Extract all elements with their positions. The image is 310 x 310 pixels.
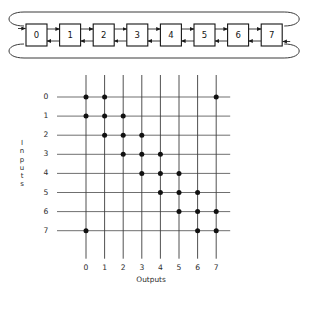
wraparound-loop-bottom xyxy=(9,44,299,58)
col-tick-label-4: 4 xyxy=(158,263,163,272)
crosspoint-in2-out3[interactable] xyxy=(139,133,144,138)
col-tick-label-7: 7 xyxy=(214,263,219,272)
node-label-6: 6 xyxy=(235,30,240,40)
node-label-2: 2 xyxy=(101,30,106,40)
row-tick-label-2: 2 xyxy=(44,130,49,139)
row-tick-label-4: 4 xyxy=(44,168,49,177)
y-axis-title-letter-1: n xyxy=(20,147,24,155)
row-tick-label-0: 0 xyxy=(44,92,49,101)
x-axis-title: Outputs xyxy=(136,275,166,284)
crosspoint-in1-out1[interactable] xyxy=(102,114,107,119)
y-axis-title-letter-2: p xyxy=(20,156,25,164)
col-tick-label-0: 0 xyxy=(84,263,89,272)
wraparound-loop-top xyxy=(9,12,299,26)
crosspoint-in3-out3[interactable] xyxy=(139,152,144,157)
ring-and-crossbar-figure: 01234567 0123456701234567OutputsInputs xyxy=(0,0,310,310)
col-tick-label-5: 5 xyxy=(177,263,182,272)
col-tick-label-3: 3 xyxy=(139,263,144,272)
crosspoint-in4-out5[interactable] xyxy=(177,171,182,176)
crosspoint-in0-out7[interactable] xyxy=(214,95,219,100)
y-axis-title-letter-5: s xyxy=(20,180,24,188)
crosspoint-in7-out7[interactable] xyxy=(214,228,219,233)
crosspoint-in0-out1[interactable] xyxy=(102,95,107,100)
crosspoint-in5-out5[interactable] xyxy=(177,190,182,195)
crosspoint-in5-out4[interactable] xyxy=(158,190,163,195)
node-label-0: 0 xyxy=(34,30,39,40)
crosspoint-in1-out0[interactable] xyxy=(84,114,89,119)
y-axis-title-letter-3: u xyxy=(20,164,24,172)
row-tick-label-5: 5 xyxy=(44,188,49,197)
node-label-4: 4 xyxy=(168,30,173,40)
crosspoint-in6-out6[interactable] xyxy=(195,209,200,214)
crossbar-matrix: 0123456701234567OutputsInputs xyxy=(20,75,230,284)
crosspoint-in2-out1[interactable] xyxy=(102,133,107,138)
row-tick-label-7: 7 xyxy=(44,226,49,235)
crosspoint-in1-out2[interactable] xyxy=(121,114,126,119)
crosspoint-in4-out3[interactable] xyxy=(139,171,144,176)
crosspoint-in2-out2[interactable] xyxy=(121,133,126,138)
crosspoint-in5-out6[interactable] xyxy=(195,190,200,195)
crosspoint-in4-out4[interactable] xyxy=(158,171,163,176)
row-tick-label-1: 1 xyxy=(44,111,49,120)
col-tick-label-2: 2 xyxy=(121,263,126,272)
crosspoint-in3-out2[interactable] xyxy=(121,152,126,157)
crosspoint-in6-out5[interactable] xyxy=(177,209,182,214)
node-label-3: 3 xyxy=(135,30,140,40)
crosspoint-in0-out0[interactable] xyxy=(84,95,89,100)
y-axis-title-letter-0: I xyxy=(21,139,23,147)
node-label-7: 7 xyxy=(269,30,274,40)
crosspoint-in7-out0[interactable] xyxy=(84,228,89,233)
col-tick-label-1: 1 xyxy=(102,263,107,272)
row-tick-label-3: 3 xyxy=(44,149,49,158)
crosspoint-in7-out6[interactable] xyxy=(195,228,200,233)
node-label-1: 1 xyxy=(67,30,72,40)
crosspoint-in3-out4[interactable] xyxy=(158,152,163,157)
col-tick-label-6: 6 xyxy=(195,263,200,272)
crosspoint-in6-out7[interactable] xyxy=(214,209,219,214)
figure-root: 01234567 0123456701234567OutputsInputs xyxy=(0,0,310,310)
node-label-5: 5 xyxy=(202,30,207,40)
row-tick-label-6: 6 xyxy=(44,207,49,216)
y-axis-title-letter-4: t xyxy=(21,172,24,180)
ring-diagram: 01234567 xyxy=(9,12,299,58)
